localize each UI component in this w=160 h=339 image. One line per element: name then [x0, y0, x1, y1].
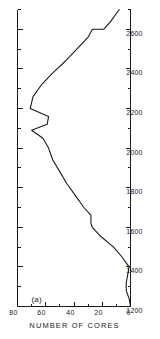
- axes-spines: [17, 9, 130, 306]
- y-tick-label: 40: [65, 309, 73, 316]
- x-tick-label: 2600: [126, 29, 142, 36]
- x-axis-minor-ticks: [17, 9, 130, 286]
- y-tick-label: 20: [94, 309, 102, 316]
- y-tick-label: 60: [37, 309, 45, 316]
- x-tick-label: 1800: [126, 187, 142, 194]
- x-axis-major-ticks: [17, 29, 130, 306]
- plot-canvas: [0, 0, 160, 339]
- y-tick-label: 0: [126, 309, 130, 316]
- data-series-line: [30, 9, 130, 306]
- chart-screenshot: 12001400160018002000220024002600 0204060…: [0, 0, 160, 339]
- y-tick-label: 80: [9, 309, 17, 316]
- figure-panel: 12001400160018002000220024002600 0204060…: [0, 0, 160, 339]
- x-tick-label: 1400: [126, 266, 142, 273]
- y-axis-title: NUMBER OF CORES: [28, 321, 118, 330]
- panel-label: (a): [31, 294, 41, 303]
- x-tick-label: 2200: [126, 108, 142, 115]
- x-tick-label: 1600: [126, 227, 142, 234]
- x-tick-label: 2000: [126, 148, 142, 155]
- x-tick-label: 2400: [126, 68, 142, 75]
